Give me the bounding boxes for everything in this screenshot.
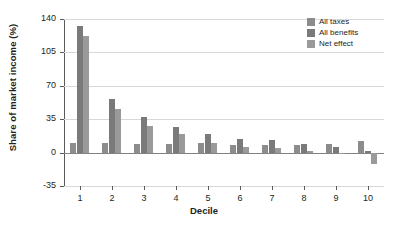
y-tick-mark [60, 186, 64, 187]
chart-figure: Share of market income (%) 14010570350-3… [0, 0, 408, 237]
bar [115, 109, 121, 153]
bar [70, 143, 76, 153]
bar [211, 143, 217, 153]
legend-swatch-icon [307, 18, 315, 26]
x-tick-label: 1 [65, 193, 95, 203]
x-tick-mark [176, 186, 177, 190]
bar [141, 117, 147, 152]
x-tick-mark [144, 186, 145, 190]
x-tick-mark [80, 186, 81, 190]
x-tick-mark [240, 186, 241, 190]
x-tick-label: 6 [225, 193, 255, 203]
bar [147, 126, 153, 153]
legend-item[interactable]: All taxes [307, 17, 358, 26]
x-tick-label: 7 [257, 193, 287, 203]
x-tick-label: 2 [97, 193, 127, 203]
bar [134, 144, 140, 153]
bar [269, 140, 275, 152]
x-tick-mark [272, 186, 273, 190]
bar-group [262, 19, 282, 186]
x-tick-label: 3 [129, 193, 159, 203]
bar [102, 143, 108, 153]
bar-group [134, 19, 154, 186]
bar-group [70, 19, 90, 186]
legend-swatch-icon [307, 29, 315, 37]
y-tick-label: 35 [10, 113, 56, 123]
x-tick-mark [368, 186, 369, 190]
x-tick-mark [336, 186, 337, 190]
bar [339, 153, 345, 154]
legend-label: All taxes [319, 17, 349, 26]
x-tick-label: 4 [161, 193, 191, 203]
bar [166, 144, 172, 153]
bar [77, 26, 83, 153]
legend-item[interactable]: Net effect [307, 39, 358, 48]
bar [205, 134, 211, 152]
bar-group [230, 19, 250, 186]
legend-item[interactable]: All benefits [307, 28, 358, 37]
bar [179, 134, 185, 152]
x-tick-label: 8 [289, 193, 319, 203]
bar [326, 144, 332, 153]
bar [230, 145, 236, 153]
legend-label: Net effect [319, 39, 353, 48]
bar [294, 145, 300, 153]
chart-legend: All taxesAll benefitsNet effect [307, 17, 358, 48]
x-tick-label: 9 [321, 193, 351, 203]
bar [83, 36, 89, 152]
x-axis-title: Decile [0, 205, 408, 216]
bar [198, 143, 204, 153]
bar [109, 99, 115, 152]
bar [358, 141, 364, 152]
bar-group [102, 19, 122, 186]
x-tick-mark [304, 186, 305, 190]
bar [301, 144, 307, 153]
x-tick-label: 5 [193, 193, 223, 203]
bar-group [198, 19, 218, 186]
x-tick-mark [112, 186, 113, 190]
bar [243, 147, 249, 153]
y-tick-label: 105 [10, 46, 56, 56]
bar [275, 148, 281, 153]
y-tick-label: 70 [10, 80, 56, 90]
bar [307, 151, 313, 153]
legend-label: All benefits [319, 28, 358, 37]
bar [237, 139, 243, 152]
bar-group [166, 19, 186, 186]
bar [262, 145, 268, 153]
bar [371, 153, 377, 164]
y-tick-label: -35 [10, 180, 56, 190]
x-tick-label: 10 [353, 193, 383, 203]
y-tick-label: 0 [10, 147, 56, 157]
bar [333, 147, 339, 153]
bar-group [358, 19, 378, 186]
bar [173, 127, 179, 153]
x-tick-mark [208, 186, 209, 190]
legend-swatch-icon [307, 40, 315, 48]
bar [365, 151, 371, 153]
y-tick-label: 140 [10, 13, 56, 23]
